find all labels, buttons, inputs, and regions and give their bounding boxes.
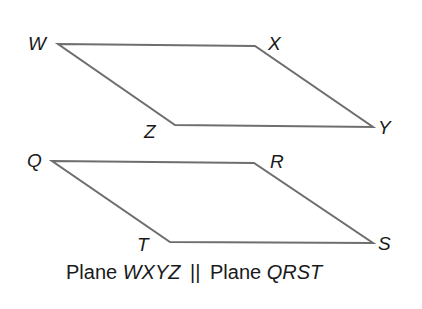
caption-plane-qrst: QRST bbox=[267, 261, 323, 283]
caption-plane-word-2: Plane bbox=[210, 261, 261, 283]
vertex-label-x: X bbox=[268, 34, 281, 53]
parallel-symbol-icon: || bbox=[190, 261, 200, 283]
vertex-label-y: Y bbox=[378, 118, 391, 137]
plane-wxyz bbox=[58, 44, 373, 127]
vertex-label-t: T bbox=[137, 235, 149, 254]
caption-plane-wxyz: WXYZ bbox=[123, 261, 181, 283]
plane-qrst bbox=[52, 161, 373, 243]
vertex-label-w: W bbox=[28, 34, 46, 53]
vertex-label-s: S bbox=[378, 234, 391, 253]
vertex-label-z: Z bbox=[144, 122, 156, 141]
vertex-label-r: R bbox=[270, 152, 284, 171]
caption: Plane WXYZ || Plane QRST bbox=[66, 262, 322, 282]
vertex-label-q: Q bbox=[27, 151, 42, 170]
caption-plane-word-1: Plane bbox=[66, 261, 117, 283]
